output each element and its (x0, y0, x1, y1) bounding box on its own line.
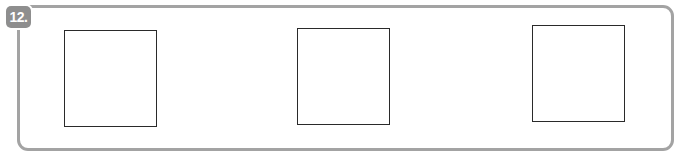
answer-box-3[interactable] (532, 25, 625, 122)
question-number-badge: 12. (6, 6, 31, 28)
answer-box-2[interactable] (297, 28, 390, 125)
answer-box-1[interactable] (64, 30, 157, 127)
